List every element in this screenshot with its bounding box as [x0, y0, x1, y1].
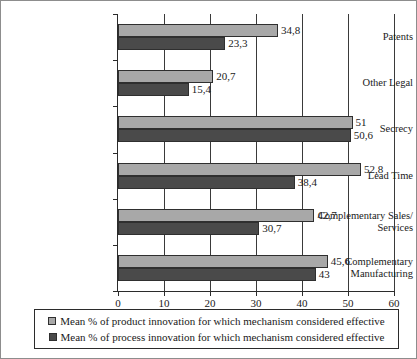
bar-value-process-1: 15,4 — [189, 83, 211, 96]
y-tick-4 — [113, 199, 118, 200]
legend-entry-process[interactable]: Mean % of process innovation for which m… — [49, 330, 385, 345]
category-label-line: Services — [304, 222, 413, 234]
x-tick-label-10: 10 — [144, 297, 184, 309]
x-tick-0 — [118, 292, 119, 296]
bar-process-2 — [118, 129, 351, 142]
x-tick-label-60: 60 — [374, 297, 414, 309]
bar-value-product-5: 45,6 — [328, 255, 350, 268]
bar-product-5 — [118, 255, 328, 268]
y-tick-0 — [113, 14, 118, 15]
bar-process-4 — [118, 222, 259, 235]
gridline-60 — [394, 14, 395, 291]
bar-value-process-5: 43 — [316, 268, 330, 281]
bar-product-2 — [118, 116, 353, 129]
bar-product-1 — [118, 70, 213, 83]
legend-entry-product[interactable]: Mean % of product innovation for which m… — [48, 314, 385, 329]
bar-value-process-0: 23,3 — [225, 37, 247, 50]
gridline-40 — [302, 14, 303, 291]
legend-swatch-product-icon — [48, 317, 56, 325]
bar-value-product-1: 20,7 — [213, 70, 235, 83]
bar-product-0 — [118, 24, 278, 37]
category-label-1: Other Legal — [304, 77, 416, 89]
bar-value-process-4: 30,7 — [259, 222, 281, 235]
y-tick-1 — [113, 60, 118, 61]
chart-legend: Mean % of product innovation for which m… — [34, 309, 399, 349]
gridline-10 — [164, 14, 165, 291]
x-tick-label-50: 50 — [328, 297, 368, 309]
x-tick-10 — [164, 292, 165, 296]
x-tick-20 — [210, 292, 211, 296]
x-tick-label-30: 30 — [236, 297, 276, 309]
bar-value-process-3: 38,4 — [295, 176, 317, 189]
bar-process-0 — [118, 37, 225, 50]
category-label-0: Patents — [304, 31, 416, 43]
chart-figure: 0102030405060 PatentsOther LegalSecrecyL… — [0, 0, 417, 359]
bar-process-3 — [118, 176, 295, 189]
category-label-line: Other Legal — [304, 77, 413, 89]
x-tick-50 — [348, 292, 349, 296]
bar-value-product-0: 34,8 — [278, 24, 300, 37]
legend-label-product: Mean % of product innovation for which m… — [60, 314, 385, 329]
gridline-30 — [256, 14, 257, 291]
bar-value-process-2: 50,6 — [351, 129, 373, 142]
bar-product-4 — [118, 209, 314, 222]
legend-swatch-process-icon — [49, 333, 57, 341]
y-tick-2 — [113, 106, 118, 107]
gridline-50 — [348, 14, 349, 291]
bar-process-1 — [118, 83, 189, 96]
x-tick-30 — [256, 292, 257, 296]
x-tick-label-0: 0 — [98, 297, 138, 309]
y-tick-6 — [113, 291, 118, 292]
bar-value-product-2: 51 — [353, 116, 367, 129]
bar-process-5 — [118, 268, 316, 281]
x-tick-label-40: 40 — [282, 297, 322, 309]
x-tick-label-20: 20 — [190, 297, 230, 309]
bar-value-product-4: 42,7 — [314, 209, 336, 222]
x-tick-60 — [394, 292, 395, 296]
y-tick-3 — [113, 153, 118, 154]
bar-product-3 — [118, 163, 361, 176]
y-tick-5 — [113, 245, 118, 246]
legend-label-process: Mean % of process innovation for which m… — [61, 330, 385, 345]
x-tick-40 — [302, 292, 303, 296]
category-label-line: Patents — [304, 31, 413, 43]
gridline-20 — [210, 14, 211, 291]
bar-value-product-3: 52,8 — [361, 163, 383, 176]
